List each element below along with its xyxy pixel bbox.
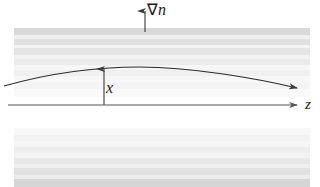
figure-canvas: [0, 0, 320, 187]
ray-gradient-figure: ∇n x z: [0, 0, 320, 187]
upper-index-bands: [14, 28, 310, 97]
lower-index-bands: [14, 128, 310, 187]
gradient-label: ∇n: [147, 2, 166, 18]
gradient-label-n: n: [158, 1, 166, 18]
x-axis-label: x: [106, 80, 113, 96]
z-axis-label: z: [305, 97, 311, 112]
nabla-icon: ∇: [147, 1, 158, 18]
